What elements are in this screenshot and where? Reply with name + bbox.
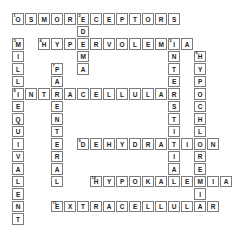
grid-cell[interactable]: D [129,138,141,150]
grid-cell[interactable]: E [129,201,141,213]
grid-cell[interactable]: T [38,88,50,100]
grid-cell[interactable]: N [51,113,63,125]
grid-cell[interactable]: O [194,138,206,150]
grid-cell[interactable]: R [64,13,76,25]
grid-cell[interactable]: A [12,163,24,175]
grid-cell[interactable]: E [90,88,102,100]
grid-cell[interactable]: A [168,163,180,175]
grid-cell[interactable]: I [181,138,193,150]
grid-cell[interactable]: O [194,88,206,100]
grid-cell[interactable]: A [194,201,206,213]
grid-cell[interactable]: O [116,38,128,50]
grid-cell[interactable]: R [142,138,154,150]
grid-cell[interactable]: M [194,176,206,188]
grid-cell[interactable]: I [168,126,180,138]
grid-cell[interactable]: O [142,13,154,25]
grid-cell[interactable]: U [12,126,24,138]
grid-cell[interactable]: R [90,201,102,213]
grid-cell[interactable]: V [103,38,115,50]
grid-cell[interactable]: E [12,188,24,200]
grid-cell[interactable]: O1 [12,13,24,25]
grid-cell[interactable]: H [103,138,115,150]
grid-cell[interactable]: N [168,51,180,63]
grid-cell[interactable]: C [90,13,102,25]
grid-cell[interactable]: S [168,13,180,25]
grid-cell[interactable]: A [155,176,167,188]
grid-cell[interactable]: N [25,88,37,100]
grid-cell[interactable]: E [51,101,63,113]
grid-cell[interactable]: L [116,88,128,100]
grid-cell[interactable]: L [12,176,24,188]
grid-cell[interactable]: E [103,13,115,25]
grid-cell[interactable]: I [194,188,206,200]
grid-cell[interactable]: T [168,138,180,150]
grid-cell[interactable]: D [77,26,89,38]
grid-cell[interactable]: E11 [51,201,63,213]
grid-cell[interactable]: M3 [12,38,24,50]
grid-cell[interactable]: P [64,38,76,50]
grid-cell[interactable]: K [142,176,154,188]
grid-cell[interactable]: L [181,201,193,213]
grid-cell[interactable]: D9 [77,138,89,150]
grid-cell[interactable]: E [51,138,63,150]
grid-cell[interactable]: L [12,63,24,75]
grid-cell[interactable]: P [116,13,128,25]
grid-cell[interactable]: M [38,13,50,25]
grid-cell[interactable]: I [207,176,219,188]
grid-cell[interactable]: L [155,201,167,213]
grid-cell[interactable]: E [181,176,193,188]
grid-cell[interactable]: V [12,151,24,163]
grid-cell[interactable]: H6 [194,51,206,63]
grid-cell[interactable]: R [90,38,102,50]
grid-cell[interactable]: A [155,138,167,150]
grid-cell[interactable]: E [142,38,154,50]
grid-cell[interactable]: I [12,138,24,150]
grid-cell[interactable]: Y [103,176,115,188]
grid-cell[interactable]: S [25,13,37,25]
grid-cell[interactable]: L [129,38,141,50]
grid-cell[interactable]: I8 [12,88,24,100]
grid-cell[interactable]: E [90,138,102,150]
grid-cell[interactable]: P [194,76,206,88]
grid-cell[interactable]: Q [12,113,24,125]
grid-cell[interactable]: A [51,76,63,88]
grid-cell[interactable]: I [12,51,24,63]
grid-cell[interactable]: C [194,101,206,113]
grid-cell[interactable]: R [51,88,63,100]
grid-cell[interactable]: E2 [77,13,89,25]
grid-cell[interactable]: H10 [90,176,102,188]
grid-cell[interactable]: P7 [51,63,63,75]
grid-cell[interactable]: L [194,126,206,138]
grid-cell[interactable]: C [116,201,128,213]
grid-cell[interactable]: N [207,138,219,150]
grid-cell[interactable]: T [77,201,89,213]
grid-cell[interactable]: E [12,101,24,113]
grid-cell[interactable]: R [194,151,206,163]
grid-cell[interactable]: X [64,201,76,213]
grid-cell[interactable]: R [168,88,180,100]
grid-cell[interactable]: L [51,176,63,188]
grid-cell[interactable]: U [129,88,141,100]
grid-cell[interactable]: Y [116,138,128,150]
grid-cell[interactable]: L [142,88,154,100]
grid-cell[interactable]: I5 [168,38,180,50]
grid-cell[interactable]: U [168,201,180,213]
grid-cell[interactable]: A [51,163,63,175]
grid-cell[interactable]: T [129,13,141,25]
grid-cell[interactable]: N [12,201,24,213]
grid-cell[interactable]: R [155,13,167,25]
grid-cell[interactable]: P [116,176,128,188]
grid-cell[interactable]: Y [194,63,206,75]
grid-cell[interactable]: A [64,88,76,100]
grid-cell[interactable]: H4 [38,38,50,50]
grid-cell[interactable]: T [51,126,63,138]
grid-cell[interactable]: R [51,151,63,163]
grid-cell[interactable]: H [194,113,206,125]
grid-cell[interactable]: T [12,213,24,225]
grid-cell[interactable]: A [181,38,193,50]
grid-cell[interactable]: T [168,113,180,125]
grid-cell[interactable]: A [77,63,89,75]
grid-cell[interactable]: O [51,13,63,25]
grid-cell[interactable]: O [129,176,141,188]
grid-cell[interactable]: A [103,201,115,213]
